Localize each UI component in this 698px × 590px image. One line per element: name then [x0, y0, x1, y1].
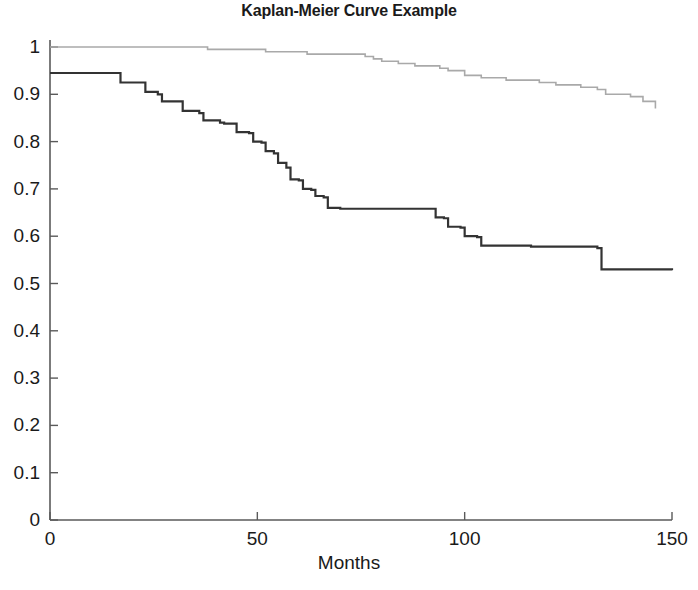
axis-lines [50, 40, 672, 520]
y-axis-tick-label: 1 [0, 37, 40, 56]
y-axis-tick-label: 0.3 [0, 368, 40, 387]
axis-ticks [50, 47, 672, 520]
x-axis-title: Months [0, 552, 698, 574]
x-axis-tick-label: 0 [15, 529, 85, 548]
y-axis-tick-label: 0.4 [0, 321, 40, 340]
y-axis-tick-label: 0.5 [0, 274, 40, 293]
survival-curve-upper-curve [50, 47, 655, 108]
kaplan-meier-plot [0, 0, 698, 590]
x-axis-tick-label: 50 [222, 529, 292, 548]
chart-figure: Kaplan-Meier Curve Example 00.10.20.30.4… [0, 0, 698, 590]
y-axis-tick-label: 0.7 [0, 179, 40, 198]
y-axis-tick-label: 0.2 [0, 415, 40, 434]
survival-curve-lower-curve [50, 73, 672, 270]
y-axis-tick-label: 0 [0, 510, 40, 529]
data-series-layer [50, 47, 672, 270]
x-axis-tick-label: 100 [430, 529, 500, 548]
x-axis-tick-label: 150 [637, 529, 698, 548]
y-axis-tick-label: 0.6 [0, 226, 40, 245]
y-axis-tick-label: 0.1 [0, 463, 40, 482]
y-axis-tick-label: 0.8 [0, 132, 40, 151]
y-axis-tick-label: 0.9 [0, 84, 40, 103]
